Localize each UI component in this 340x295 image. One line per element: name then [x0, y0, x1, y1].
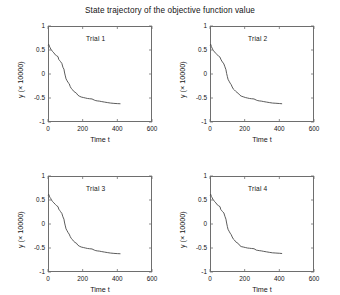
- x-tick-label: 0: [36, 125, 60, 132]
- y-tick-label: 1: [186, 172, 207, 179]
- trajectory-line: [210, 194, 282, 253]
- x-tick-label: 600: [140, 125, 164, 132]
- trial-label-4: Trial 4: [248, 185, 267, 192]
- y-tick-label: -0.5: [186, 94, 207, 101]
- x-tick-label: 200: [71, 275, 95, 282]
- x-tick-label: 0: [36, 275, 60, 282]
- x-axis-title: Time t: [48, 285, 152, 294]
- y-tick-label: -0.5: [24, 244, 45, 251]
- y-tick-label: 0: [24, 70, 45, 77]
- y-tick-label: 0: [186, 220, 207, 227]
- x-tick-label: 400: [267, 125, 291, 132]
- y-axis-title: y (× 10000): [178, 211, 187, 248]
- x-tick-label: 600: [140, 275, 164, 282]
- y-axis-title: y (× 10000): [16, 211, 25, 248]
- y-tick-label: 1: [24, 22, 45, 29]
- x-tick-label: 600: [302, 275, 326, 282]
- y-tick-label: 0.5: [24, 196, 45, 203]
- x-tick-label: 600: [302, 125, 326, 132]
- y-tick-label: -0.5: [186, 244, 207, 251]
- y-tick-label: 1: [186, 22, 207, 29]
- y-tick-label: -1: [186, 268, 207, 275]
- figure-canvas: State trajectory of the objective functi…: [0, 0, 340, 295]
- y-tick-label: 1: [24, 172, 45, 179]
- y-tick-label: -1: [186, 118, 207, 125]
- x-axis-title: Time t: [210, 135, 314, 144]
- y-tick-label: -0.5: [24, 94, 45, 101]
- y-tick-label: -1: [24, 118, 45, 125]
- x-tick-label: 0: [198, 125, 222, 132]
- x-axis-title: Time t: [48, 135, 152, 144]
- y-axis-title: y (× 10000): [16, 61, 25, 98]
- figure-title: State trajectory of the objective functi…: [0, 6, 340, 15]
- x-tick-label: 200: [71, 125, 95, 132]
- y-tick-label: 0.5: [186, 46, 207, 53]
- y-tick-label: 0: [24, 220, 45, 227]
- trajectory-line: [48, 44, 120, 104]
- x-tick-label: 400: [105, 125, 129, 132]
- x-tick-label: 200: [233, 125, 257, 132]
- plot-panel-2: Trial 210.50-0.5-10200400600Time ty (× 1…: [210, 26, 314, 122]
- trial-label-1: Trial 1: [86, 35, 105, 42]
- plot-panel-1: Trial 110.50-0.5-10200400600Time ty (× 1…: [48, 26, 152, 122]
- trajectory-line: [48, 194, 120, 254]
- y-tick-label: -1: [24, 268, 45, 275]
- y-tick-label: 0: [186, 70, 207, 77]
- plot-panel-3: Trial 310.50-0.5-10200400600Time ty (× 1…: [48, 176, 152, 272]
- trial-label-3: Trial 3: [86, 185, 105, 192]
- x-tick-label: 400: [105, 275, 129, 282]
- x-axis-title: Time t: [210, 285, 314, 294]
- plot-panel-4: Trial 410.50-0.5-10200400600Time ty (× 1…: [210, 176, 314, 272]
- y-tick-label: 0.5: [24, 46, 45, 53]
- y-tick-label: 0.5: [186, 196, 207, 203]
- trajectory-line: [210, 44, 282, 104]
- x-tick-label: 400: [267, 275, 291, 282]
- y-axis-title: y (× 10000): [178, 61, 187, 98]
- trial-label-2: Trial 2: [248, 35, 267, 42]
- x-tick-label: 200: [233, 275, 257, 282]
- x-tick-label: 0: [198, 275, 222, 282]
